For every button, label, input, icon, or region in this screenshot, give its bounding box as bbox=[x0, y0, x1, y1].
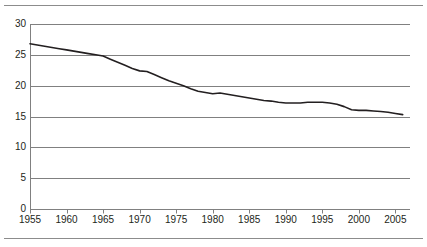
gridlines-group bbox=[30, 25, 410, 210]
x-tick-label-1990: 1990 bbox=[266, 215, 306, 225]
y-tick-label-text: 10 bbox=[4, 142, 26, 152]
x-tick-label-2005: 2005 bbox=[375, 215, 415, 225]
x-tick-label-1965: 1965 bbox=[83, 215, 123, 225]
y-tick-label-text: 0 bbox=[4, 204, 26, 214]
x-tick-label-1970: 1970 bbox=[120, 215, 160, 225]
x-tick-label-1980: 1980 bbox=[193, 215, 233, 225]
y-tick-label-text: 20 bbox=[4, 81, 26, 91]
x-tick-label-1955: 1955 bbox=[10, 215, 50, 225]
data-line-series-1 bbox=[30, 44, 403, 115]
x-tick-marks-group bbox=[31, 210, 396, 214]
y-tick-label-text: 15 bbox=[4, 112, 26, 122]
y-tick-label-text: 25 bbox=[4, 50, 26, 60]
x-tick-label-1960: 1960 bbox=[47, 215, 87, 225]
x-tick-label-2000: 2000 bbox=[339, 215, 379, 225]
y-tick-label-text: 5 bbox=[4, 173, 26, 183]
plot-area: 051015202530 195519601965197019751980198… bbox=[0, 0, 427, 247]
line-chart-figure: 051015202530 195519601965197019751980198… bbox=[0, 0, 427, 247]
x-tick-label-1985: 1985 bbox=[229, 215, 269, 225]
chart-canvas bbox=[0, 0, 427, 247]
data-line-group bbox=[30, 44, 403, 115]
y-tick-label-text: 30 bbox=[4, 19, 26, 29]
x-tick-label-1995: 1995 bbox=[302, 215, 342, 225]
x-tick-label-1975: 1975 bbox=[156, 215, 196, 225]
